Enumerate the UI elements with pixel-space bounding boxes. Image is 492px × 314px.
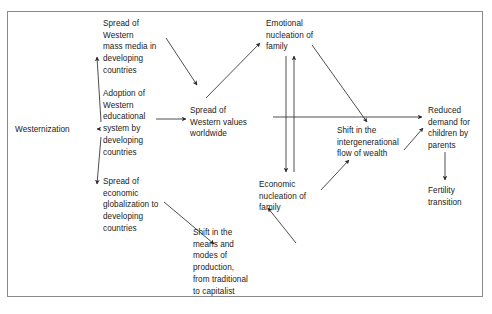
node-emotional_nucleation: Emotional nucleation of family — [266, 18, 340, 53]
node-western_values: Spread of Western values worldwide — [190, 105, 270, 140]
node-fertility_transition: Fertility transition — [428, 185, 490, 208]
node-economic_globalization: Spread of economic globalization to deve… — [103, 176, 185, 235]
node-mass_media: Spread of Western mass media in developi… — [103, 18, 179, 77]
node-westernization: Westernization — [15, 124, 99, 136]
node-economic_nucleation: Economic nucleation of family — [259, 179, 333, 214]
node-reduced_demand: Reduced demand for children by parents — [428, 105, 490, 152]
diagram-figure: WesternizationSpread of Western mass med… — [0, 0, 492, 314]
node-modes_production: Shift in the means and modes of producti… — [193, 227, 273, 297]
node-education: Adoption of Western educational system b… — [103, 88, 179, 158]
node-intergenerational_wealth: Shift in the intergenerational flow of w… — [337, 125, 421, 160]
